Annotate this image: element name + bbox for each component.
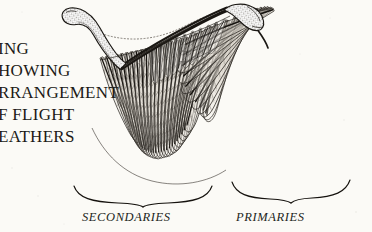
label-secondaries: SECONDARIES: [82, 210, 171, 225]
wing-illustration: [0, 0, 372, 232]
illustration-plate: ING HOWING RRANGEMENT F FLIGHT EATHERS S…: [0, 0, 372, 232]
label-primaries: PRIMARIES: [236, 210, 305, 225]
